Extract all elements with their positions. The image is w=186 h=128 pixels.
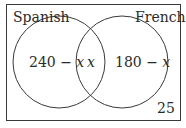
variable-x: x xyxy=(162,54,170,70)
french-only-region-label: 180 − x xyxy=(115,55,170,69)
variable-x: x xyxy=(76,54,84,70)
intersection-region-label: x xyxy=(87,55,95,69)
spanish-only-region-label: 240 − x xyxy=(29,55,84,69)
french-only-value: 180 − x xyxy=(115,54,170,70)
spanish-only-value: 240 − x xyxy=(29,54,84,70)
spanish-set-label: Spanish xyxy=(13,10,70,24)
french-set-label: French xyxy=(135,10,186,24)
outside-region-label: 25 xyxy=(157,101,175,115)
